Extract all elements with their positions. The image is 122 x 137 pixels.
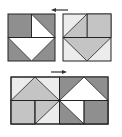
top-left-tile [8, 14, 55, 61]
puzzle-diagram [0, 0, 122, 137]
top-right-tile [63, 14, 111, 61]
bottom-combined-tile [11, 77, 108, 124]
arrow-right-icon [51, 70, 67, 74]
arrow-left-icon [51, 8, 68, 12]
